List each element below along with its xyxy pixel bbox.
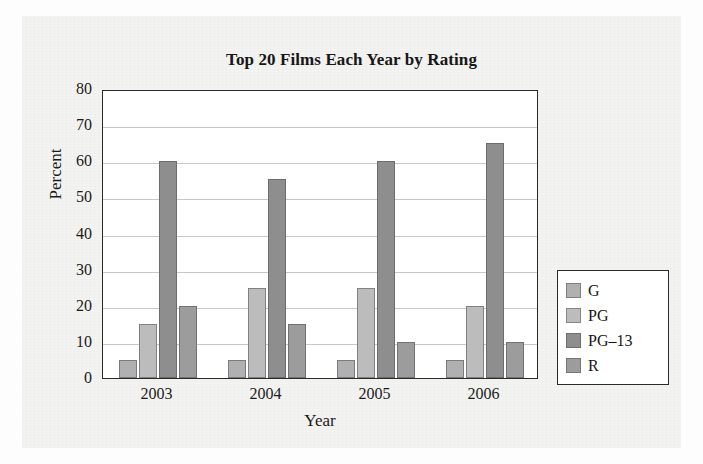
bar [228,360,246,378]
y-tick-label: 80 [36,80,92,98]
bar [268,179,286,378]
y-tick-label: 10 [36,333,92,351]
chart-title: Top 20 Films Each Year by Rating [0,50,703,70]
legend-item[interactable]: PG–13 [566,328,668,353]
legend-item[interactable]: G [566,278,668,303]
legend-label: PG [588,308,608,324]
x-axis-label: Year [102,411,538,431]
y-tick-label: 0 [36,369,92,387]
bar [248,288,266,378]
bar [357,288,375,378]
chart-page: Top 20 Films Each Year by Rating Percent… [0,0,703,464]
bar [446,360,464,378]
legend-swatch-icon [566,333,581,348]
x-tick-label: 2004 [221,385,311,403]
bar [288,324,306,378]
y-tick-label: 40 [36,225,92,243]
bar [466,306,484,378]
legend-swatch-icon [566,308,581,323]
legend-item[interactable]: PG [566,303,668,328]
legend-label: G [588,283,600,299]
x-tick-label: 2006 [439,385,529,403]
x-tick-label: 2003 [112,385,202,403]
chart-legend: GPGPG–13R [557,270,669,385]
bar [337,360,355,378]
gridline [103,127,537,128]
bar [179,306,197,378]
y-tick-label: 60 [36,152,92,170]
y-tick-label: 70 [36,116,92,134]
y-tick-label: 20 [36,297,92,315]
plot-area [102,90,538,379]
bar [506,342,524,378]
bar [377,161,395,378]
bar [159,161,177,378]
y-tick-label: 30 [36,261,92,279]
bar [486,143,504,378]
bar [119,360,137,378]
legend-swatch-icon [566,358,581,373]
bar [397,342,415,378]
legend-item[interactable]: R [566,353,668,378]
x-tick-label: 2005 [330,385,420,403]
y-tick-label: 50 [36,188,92,206]
legend-swatch-icon [566,283,581,298]
legend-label: R [588,358,599,374]
bar [139,324,157,378]
legend-label: PG–13 [588,333,632,349]
